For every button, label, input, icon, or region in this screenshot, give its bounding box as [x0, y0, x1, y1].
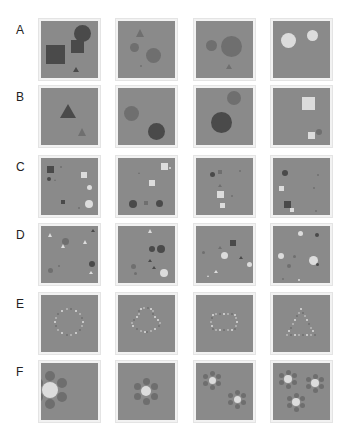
- circle-shape: [154, 316, 156, 318]
- circle-shape: [79, 329, 81, 331]
- triangle-shape: [78, 128, 86, 136]
- circle-shape: [298, 279, 300, 281]
- circle-shape: [143, 378, 150, 385]
- circle-shape: [136, 328, 138, 330]
- circle-shape: [294, 407, 299, 412]
- circle-shape: [70, 308, 72, 310]
- circle-shape: [315, 233, 319, 237]
- circle-shape: [146, 48, 161, 63]
- circle-shape: [316, 129, 322, 135]
- circle-shape: [290, 334, 292, 336]
- row-label-d: D: [16, 228, 25, 242]
- triangle-shape: [73, 67, 79, 72]
- stimulus-panel-c2: [118, 158, 175, 215]
- circle-shape: [293, 255, 296, 258]
- circle-shape: [210, 321, 212, 323]
- circle-shape: [315, 210, 317, 212]
- stimulus-panel-e4: [273, 295, 330, 352]
- circle-shape: [310, 334, 312, 336]
- circle-shape: [54, 321, 56, 323]
- circle-shape: [306, 319, 308, 321]
- square-shape: [149, 180, 155, 186]
- circle-shape: [302, 334, 304, 336]
- circle-shape: [316, 263, 319, 266]
- triangle-shape: [54, 179, 56, 181]
- circle-shape: [150, 330, 152, 332]
- circle-shape: [138, 310, 140, 312]
- circle-shape: [89, 261, 95, 267]
- stimulus-panel-d4: [273, 226, 330, 283]
- stimulus-panel-a4: [273, 21, 330, 78]
- stimulus-panel-b2: [118, 88, 175, 145]
- circle-shape: [235, 325, 237, 327]
- square-shape: [308, 132, 315, 139]
- circle-shape: [141, 386, 151, 396]
- circle-shape: [236, 321, 238, 323]
- circle-shape: [55, 325, 57, 327]
- circle-shape: [42, 382, 58, 398]
- circle-shape: [151, 393, 158, 400]
- circle-shape: [138, 313, 140, 315]
- circle-shape: [147, 307, 149, 309]
- circle-shape: [228, 400, 233, 405]
- circle-shape: [129, 200, 137, 208]
- triangle-shape: [61, 244, 65, 248]
- triangle-shape: [91, 229, 95, 232]
- circle-shape: [284, 375, 292, 383]
- circle-shape: [239, 170, 241, 172]
- circle-shape: [300, 403, 305, 408]
- circle-shape: [210, 371, 215, 376]
- circle-shape: [234, 314, 236, 316]
- square-shape: [284, 201, 291, 208]
- circle-shape: [210, 172, 215, 177]
- circle-shape: [66, 308, 68, 310]
- circle-shape: [278, 253, 284, 259]
- circle-shape: [55, 317, 57, 319]
- circle-shape: [231, 329, 233, 331]
- circle-shape: [211, 325, 213, 327]
- circle-shape: [132, 325, 134, 327]
- circle-shape: [140, 65, 142, 67]
- circle-shape: [130, 43, 139, 52]
- stimulus-panel-f3: [196, 363, 253, 420]
- circle-shape: [307, 30, 318, 41]
- circle-shape: [211, 317, 213, 319]
- stimulus-panel-c4: [273, 158, 330, 215]
- circle-shape: [223, 313, 225, 315]
- circle-shape: [306, 334, 308, 336]
- circle-shape: [311, 379, 319, 387]
- circle-shape: [228, 393, 233, 398]
- circle-shape: [157, 319, 159, 321]
- circle-shape: [203, 374, 208, 379]
- square-shape: [230, 240, 236, 246]
- circle-shape: [212, 328, 214, 330]
- circle-shape: [215, 329, 217, 331]
- circle-shape: [300, 308, 302, 310]
- circle-shape: [206, 40, 217, 51]
- circle-shape: [241, 400, 246, 405]
- circle-shape: [133, 319, 135, 321]
- circle-shape: [227, 313, 229, 315]
- stimulus-panel-a2: [118, 21, 175, 78]
- circle-shape: [231, 313, 233, 315]
- circle-shape: [134, 393, 141, 400]
- circle-shape: [288, 330, 290, 332]
- circle-shape: [282, 170, 288, 176]
- circle-shape: [45, 399, 55, 409]
- stimulus-panel-e3: [196, 295, 253, 352]
- circle-shape: [149, 246, 155, 252]
- stimulus-panel-c1: [41, 158, 98, 215]
- circle-shape: [221, 36, 242, 57]
- stimulus-panel-a3: [196, 21, 253, 78]
- circle-shape: [124, 106, 139, 121]
- circle-shape: [282, 278, 284, 280]
- circle-shape: [58, 265, 60, 267]
- circle-shape: [61, 332, 63, 334]
- triangle-shape: [239, 256, 243, 259]
- circle-shape: [87, 185, 92, 190]
- circle-shape: [223, 329, 225, 331]
- circle-shape: [247, 262, 252, 267]
- triangle-shape: [60, 104, 76, 118]
- circle-shape: [156, 200, 163, 207]
- circle-shape: [298, 231, 303, 236]
